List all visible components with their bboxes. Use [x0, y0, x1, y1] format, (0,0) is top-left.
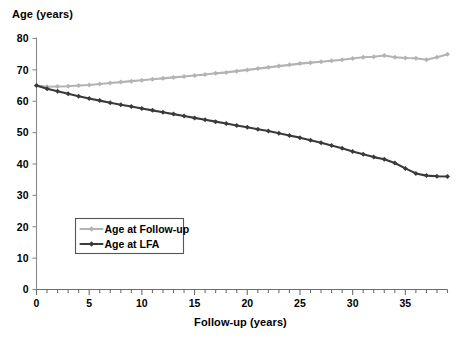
series-marker: [245, 125, 250, 130]
series-marker: [245, 67, 250, 72]
series-marker: [203, 117, 208, 122]
series-marker: [255, 66, 260, 71]
data-series: [34, 52, 450, 90]
series-marker: [108, 81, 113, 86]
legend-label: Age at LFA: [105, 238, 160, 250]
y-tick-label: 10: [17, 252, 29, 264]
x-tick-label: 0: [34, 297, 40, 309]
chart-plot-area: 01020304050607080 05101520253035 Age at …: [0, 0, 459, 342]
series-marker: [392, 55, 397, 60]
series-marker: [160, 110, 165, 115]
series-marker: [234, 69, 239, 74]
series-marker: [66, 84, 71, 89]
series-marker: [403, 55, 408, 60]
series-marker: [413, 56, 418, 61]
series-marker: [224, 70, 229, 75]
series-marker: [266, 65, 271, 70]
series-marker: [203, 72, 208, 77]
series-marker: [445, 174, 450, 179]
x-tick-label: 25: [294, 297, 306, 309]
series-marker: [382, 157, 387, 162]
series-marker: [287, 133, 292, 138]
series-marker: [424, 173, 429, 178]
series-marker: [350, 56, 355, 61]
series-marker: [361, 152, 366, 157]
legend-label: Age at Follow-up: [105, 223, 190, 235]
series-marker: [182, 74, 187, 79]
chart-figure: Age (years) Follow-up (years) 0102030405…: [0, 0, 459, 342]
series-marker: [319, 140, 324, 145]
series-marker: [213, 119, 218, 124]
series-marker: [76, 83, 81, 88]
series-marker: [371, 54, 376, 59]
series-marker: [224, 121, 229, 126]
series-line: [37, 54, 448, 87]
series-marker: [55, 89, 60, 94]
series-marker: [171, 75, 176, 80]
series-marker: [34, 83, 39, 88]
series-marker: [434, 174, 439, 179]
series-marker: [76, 94, 81, 99]
series-marker: [308, 138, 313, 143]
x-tick-label: 35: [400, 297, 412, 309]
series-marker: [287, 62, 292, 67]
y-tick-label: 0: [23, 283, 29, 295]
series-marker: [87, 96, 92, 101]
series-marker: [118, 102, 123, 107]
series-marker: [329, 58, 334, 63]
series-marker: [108, 100, 113, 105]
series-marker: [192, 73, 197, 78]
x-axis-ticks: 05101520253035: [34, 290, 448, 310]
y-tick-label: 70: [17, 64, 29, 76]
series-marker: [150, 77, 155, 82]
y-tick-label: 30: [17, 189, 29, 201]
x-tick-label: 5: [86, 297, 92, 309]
series-marker: [87, 82, 92, 87]
series-marker: [266, 129, 271, 134]
series-marker: [297, 135, 302, 140]
series-marker: [361, 55, 366, 60]
series-marker: [171, 112, 176, 117]
x-tick-label: 15: [189, 297, 201, 309]
series-marker: [150, 108, 155, 113]
series-marker: [350, 149, 355, 154]
y-tick-label: 40: [17, 158, 29, 170]
series-marker: [276, 64, 281, 69]
series-marker: [319, 59, 324, 64]
x-tick-label: 10: [136, 297, 148, 309]
data-series-group: [34, 52, 450, 179]
series-marker: [97, 81, 102, 86]
series-marker: [255, 127, 260, 132]
series-marker: [445, 52, 450, 57]
series-marker: [139, 106, 144, 111]
series-marker: [55, 84, 60, 89]
series-marker: [329, 143, 334, 148]
x-tick-label: 20: [241, 297, 253, 309]
y-tick-label: 80: [17, 32, 29, 44]
series-marker: [182, 113, 187, 118]
series-marker: [434, 55, 439, 60]
series-marker: [340, 57, 345, 62]
chart-legend: Age at Follow-upAge at LFA: [76, 219, 190, 254]
data-series: [34, 83, 450, 179]
series-marker: [66, 91, 71, 96]
series-marker: [308, 60, 313, 65]
series-marker: [340, 146, 345, 151]
series-marker: [213, 71, 218, 76]
y-tick-label: 50: [17, 126, 29, 138]
series-marker: [234, 123, 239, 128]
y-axis-ticks: 01020304050607080: [17, 32, 37, 295]
series-marker: [382, 53, 387, 58]
series-marker: [192, 115, 197, 120]
y-tick-label: 20: [17, 221, 29, 233]
x-tick-label: 30: [347, 297, 359, 309]
series-marker: [139, 78, 144, 83]
series-line: [37, 86, 448, 177]
series-marker: [97, 98, 102, 103]
series-marker: [129, 104, 134, 109]
series-marker: [424, 57, 429, 62]
series-marker: [160, 76, 165, 81]
series-marker: [129, 79, 134, 84]
series-marker: [276, 131, 281, 136]
series-marker: [297, 61, 302, 66]
